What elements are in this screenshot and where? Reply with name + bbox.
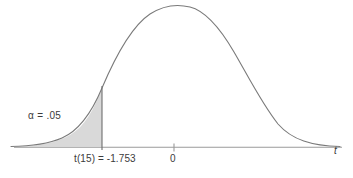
zero-tick-label: 0	[170, 154, 176, 164]
x-axis-label: t	[334, 146, 337, 156]
t-distribution-figure: α = .05 t(15) = -1.753 0 t	[0, 0, 353, 178]
t-distribution-curve	[11, 5, 340, 146]
distribution-plot	[0, 0, 353, 178]
critical-value-label: t(15) = -1.753	[74, 154, 136, 164]
alpha-annotation-label: α = .05	[28, 111, 61, 121]
